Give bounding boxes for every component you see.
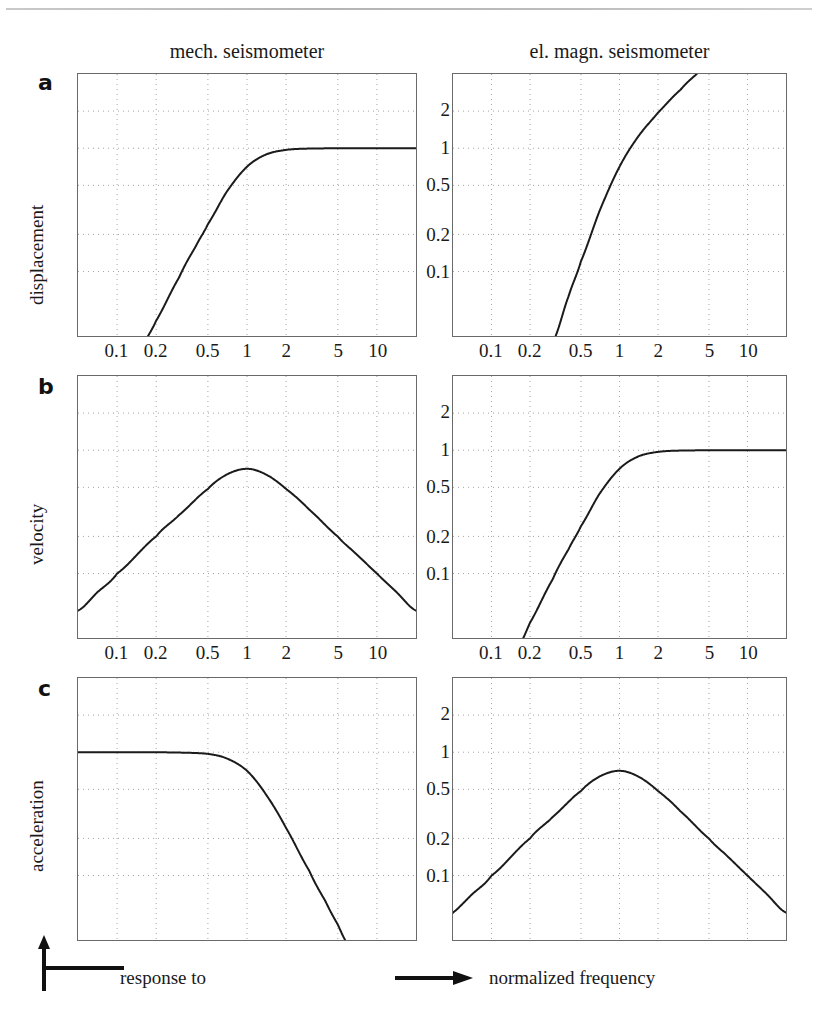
frequency-axis-arrow bbox=[395, 968, 475, 988]
x-tick-label: 2 bbox=[654, 340, 664, 362]
grid-lines bbox=[78, 678, 416, 940]
response-curve bbox=[78, 469, 416, 611]
y-tick-label: 1 bbox=[441, 439, 451, 461]
x-tick-label: 0.1 bbox=[104, 340, 128, 362]
response-curve bbox=[514, 450, 786, 638]
y-tick-label: 2 bbox=[441, 401, 451, 423]
x-tick-label: 5 bbox=[334, 340, 344, 362]
x-axis-ticks-a-left: 0.10.20.512510 bbox=[77, 340, 417, 366]
x-tick-label: 0.5 bbox=[196, 340, 220, 362]
x-tick-label: 5 bbox=[705, 340, 715, 362]
x-tick-label: 10 bbox=[739, 642, 758, 664]
column-title-right: el. magn. seismometer bbox=[452, 40, 787, 63]
y-tick-label: 0.2 bbox=[426, 224, 450, 246]
x-tick-label: 0.1 bbox=[479, 642, 503, 664]
y-tick-label: 0.1 bbox=[426, 865, 450, 887]
x-tick-label: 5 bbox=[334, 642, 344, 664]
y-axis-ticks-row-b: 210.50.20.1 bbox=[404, 375, 450, 639]
y-tick-label: 0.5 bbox=[426, 174, 450, 196]
x-tick-label: 0.5 bbox=[196, 642, 220, 664]
x-tick-label: 2 bbox=[282, 340, 292, 362]
row-ylabel-acceleration: acceleration bbox=[26, 780, 48, 872]
legend-response-to: response to bbox=[120, 967, 206, 989]
grid-lines bbox=[453, 678, 786, 940]
x-axis-ticks-a-right: 0.10.20.512510 bbox=[452, 340, 787, 366]
response-curve bbox=[78, 752, 348, 940]
panel-label-a: a bbox=[38, 70, 53, 95]
panel-label-c: c bbox=[38, 676, 51, 701]
panel-c-right-chart bbox=[452, 677, 787, 941]
response-curve bbox=[553, 74, 728, 336]
y-tick-label: 0.1 bbox=[426, 563, 450, 585]
grid-lines bbox=[78, 74, 416, 336]
x-tick-label: 2 bbox=[654, 642, 664, 664]
x-axis-ticks-b-left: 0.10.20.512510 bbox=[77, 642, 417, 668]
panel-c-left-chart bbox=[77, 677, 417, 941]
x-tick-label: 10 bbox=[739, 340, 758, 362]
y-tick-label: 0.2 bbox=[426, 828, 450, 850]
row-ylabel-velocity: velocity bbox=[26, 504, 48, 565]
x-tick-label: 5 bbox=[705, 642, 715, 664]
y-tick-label: 1 bbox=[441, 137, 451, 159]
y-tick-label: 0.1 bbox=[426, 261, 450, 283]
row-ylabel-displacement: displacement bbox=[26, 205, 48, 305]
y-axis-ticks-row-c: 210.50.20.1 bbox=[404, 677, 450, 941]
x-tick-label: 0.2 bbox=[518, 340, 542, 362]
y-axis-ticks-row-a: 210.50.20.1 bbox=[404, 73, 450, 337]
x-axis-ticks-b-right: 0.10.20.512510 bbox=[452, 642, 787, 668]
panel-b-right-chart bbox=[452, 375, 787, 639]
legend-normalized-frequency: normalized frequency bbox=[489, 967, 655, 989]
x-tick-label: 0.5 bbox=[569, 642, 593, 664]
x-tick-label: 0.1 bbox=[479, 340, 503, 362]
x-tick-label: 10 bbox=[368, 642, 387, 664]
y-tick-label: 2 bbox=[441, 703, 451, 725]
x-tick-label: 1 bbox=[615, 340, 625, 362]
page-top-rule bbox=[6, 8, 812, 10]
x-tick-label: 0.1 bbox=[104, 642, 128, 664]
panel-a-left-chart bbox=[77, 73, 417, 337]
x-tick-label: 1 bbox=[242, 642, 252, 664]
response-curve bbox=[127, 148, 416, 336]
x-tick-label: 1 bbox=[615, 642, 625, 664]
x-tick-label: 0.2 bbox=[518, 642, 542, 664]
y-tick-label: 0.5 bbox=[426, 476, 450, 498]
x-tick-label: 0.2 bbox=[144, 642, 168, 664]
y-tick-label: 2 bbox=[441, 99, 451, 121]
x-tick-label: 1 bbox=[242, 340, 252, 362]
column-title-left: mech. seismometer bbox=[77, 40, 417, 63]
grid-lines bbox=[453, 376, 786, 638]
grid-lines bbox=[453, 74, 786, 336]
x-tick-label: 2 bbox=[282, 642, 292, 664]
y-tick-label: 0.5 bbox=[426, 778, 450, 800]
panel-label-b: b bbox=[38, 374, 54, 399]
x-tick-label: 0.2 bbox=[144, 340, 168, 362]
y-tick-label: 1 bbox=[441, 741, 451, 763]
grid-lines bbox=[78, 376, 416, 638]
y-tick-label: 0.2 bbox=[426, 526, 450, 548]
response-axis-elbow bbox=[36, 960, 126, 976]
panel-a-right-chart bbox=[452, 73, 787, 337]
x-tick-label: 0.5 bbox=[569, 340, 593, 362]
panel-b-left-chart bbox=[77, 375, 417, 639]
x-tick-label: 10 bbox=[368, 340, 387, 362]
